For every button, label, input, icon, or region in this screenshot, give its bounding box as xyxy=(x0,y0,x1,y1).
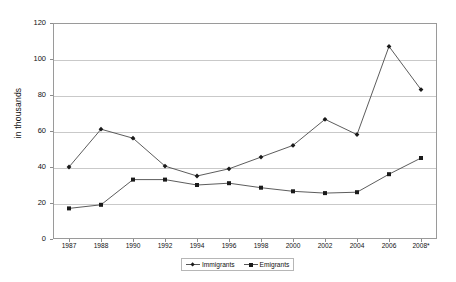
data-point xyxy=(355,132,360,137)
data-point xyxy=(195,174,200,179)
data-point xyxy=(67,206,71,210)
series-layer xyxy=(0,0,456,282)
legend-label: Immigrants xyxy=(202,261,235,268)
series-immigrants xyxy=(67,44,424,178)
legend-item-immigrants[interactable]: Immigrants xyxy=(186,261,235,268)
line-chart: in thousands 020406080100120 19871988199… xyxy=(0,0,456,282)
data-point xyxy=(419,156,423,160)
data-point xyxy=(323,191,327,195)
data-point xyxy=(227,166,232,171)
data-point xyxy=(355,190,359,194)
legend-item-emigrants[interactable]: Emigrants xyxy=(244,261,290,268)
data-point xyxy=(227,181,231,185)
series-emigrants xyxy=(67,156,423,210)
data-point xyxy=(387,172,391,176)
series-line xyxy=(69,46,421,176)
data-point xyxy=(99,203,103,207)
data-point xyxy=(195,183,199,187)
data-point xyxy=(259,186,263,190)
data-point xyxy=(259,155,264,160)
chart-legend: ImmigrantsEmigrants xyxy=(181,258,294,271)
data-point xyxy=(131,178,135,182)
legend-label: Emigrants xyxy=(260,261,290,268)
data-point xyxy=(291,189,295,193)
legend-diamond-marker-icon xyxy=(186,261,200,268)
data-point xyxy=(163,178,167,182)
series-line xyxy=(69,158,421,208)
legend-square-marker-icon xyxy=(244,261,258,268)
